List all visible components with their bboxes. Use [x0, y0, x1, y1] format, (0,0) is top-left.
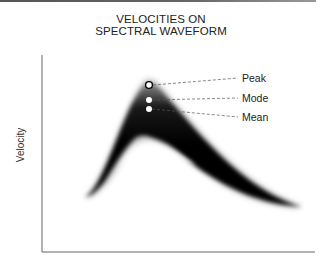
peak-leader-line: [153, 78, 238, 85]
peak-marker: [146, 82, 153, 89]
waveform-plot: [0, 0, 322, 266]
mode-marker: [146, 97, 152, 103]
mode-label: Mode: [242, 92, 268, 104]
waveform-band: [85, 82, 302, 207]
mean-label: Mean: [242, 111, 268, 123]
mean-marker: [146, 106, 152, 112]
peak-label: Peak: [242, 72, 266, 84]
